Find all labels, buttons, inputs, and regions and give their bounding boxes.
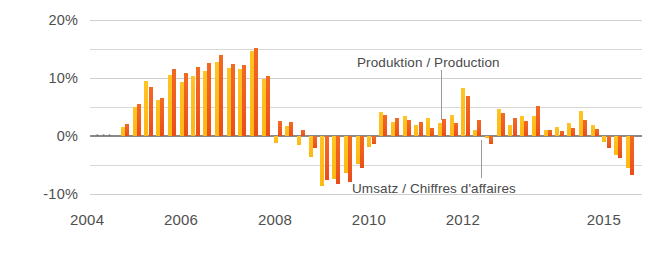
annotation-production-leader-line — [441, 70, 442, 120]
bar-production — [548, 130, 552, 136]
bar-production — [149, 87, 153, 136]
bar-production — [595, 129, 599, 136]
x-tick-label: 2004 — [70, 212, 104, 227]
annotation-sales-label: Umsatz / Chiffres d'affaires — [352, 182, 516, 196]
bar-production — [289, 122, 293, 136]
bar-production — [571, 128, 575, 136]
bar-production — [219, 55, 223, 136]
bar-production — [407, 120, 411, 136]
x-axis: 2004 2006 2008 2010 2012 2015 — [0, 212, 655, 242]
bar-production — [430, 128, 434, 136]
y-tick-label: 10% — [48, 71, 78, 86]
bar-production — [254, 48, 258, 136]
y-tick-label: -10% — [43, 187, 78, 202]
bar-production — [372, 136, 376, 144]
x-tick-label: 2015 — [587, 212, 621, 227]
bar-production — [266, 76, 270, 136]
bar-production — [172, 69, 176, 136]
bar-production — [313, 136, 317, 148]
bar-production — [618, 136, 622, 158]
bar-production — [501, 113, 505, 136]
bar-production — [466, 96, 470, 136]
bar-production — [607, 136, 611, 148]
bar-production — [536, 106, 540, 136]
bar-production — [242, 65, 246, 136]
bar-production — [419, 122, 423, 137]
bar-series-group — [90, 14, 642, 206]
bar-production — [125, 124, 129, 136]
bar-production — [207, 63, 211, 136]
bar-sales — [274, 136, 278, 143]
annotation-sales-leader-line — [481, 140, 482, 178]
bar-production — [489, 136, 493, 144]
bar-production — [278, 121, 282, 136]
x-tick-label: 2010 — [352, 212, 386, 227]
bar-production — [137, 104, 141, 137]
bar-chart: 20% 10% 0% -10% ... 2004 2006 2008 2010 … — [0, 0, 655, 256]
x-tick-label: 2012 — [446, 212, 480, 227]
bar-production — [196, 67, 200, 136]
bar-production — [513, 118, 517, 136]
plot-area — [90, 14, 642, 206]
bar-production — [477, 120, 481, 136]
bar-production — [524, 121, 528, 136]
bar-production — [583, 120, 587, 136]
bar-production — [301, 130, 305, 136]
bar-production — [383, 115, 387, 136]
y-tick-label: 20% — [48, 13, 78, 28]
series-continuation-ellipsis: ... — [95, 123, 114, 138]
y-tick-label: 0% — [57, 129, 78, 144]
bar-production — [348, 136, 352, 182]
bar-production — [360, 136, 364, 167]
bar-production — [325, 136, 329, 180]
bar-production — [630, 136, 634, 174]
bar-production — [442, 119, 446, 136]
bar-production — [231, 64, 235, 136]
bar-production — [160, 98, 164, 136]
bar-production — [395, 118, 399, 137]
x-tick-label: 2008 — [258, 212, 292, 227]
x-tick-label: 2006 — [164, 212, 198, 227]
bar-production — [184, 73, 188, 136]
annotation-production-label: Produktion / Production — [357, 56, 500, 70]
bar-sales — [297, 136, 301, 145]
bar-production — [454, 123, 458, 136]
bar-production — [336, 136, 340, 184]
bar-production — [560, 131, 564, 136]
